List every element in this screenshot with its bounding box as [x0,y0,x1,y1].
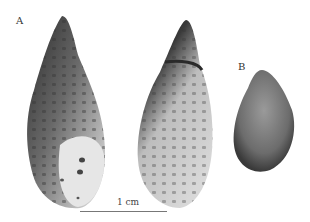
specimen-a-abapertural [138,20,213,208]
scale-bar-label: 1 cm [108,197,148,207]
specimen-plate [0,0,310,222]
scale-bar [80,211,167,212]
specimen-a-apertural [27,16,105,208]
specimen-b-operculum [234,70,295,172]
